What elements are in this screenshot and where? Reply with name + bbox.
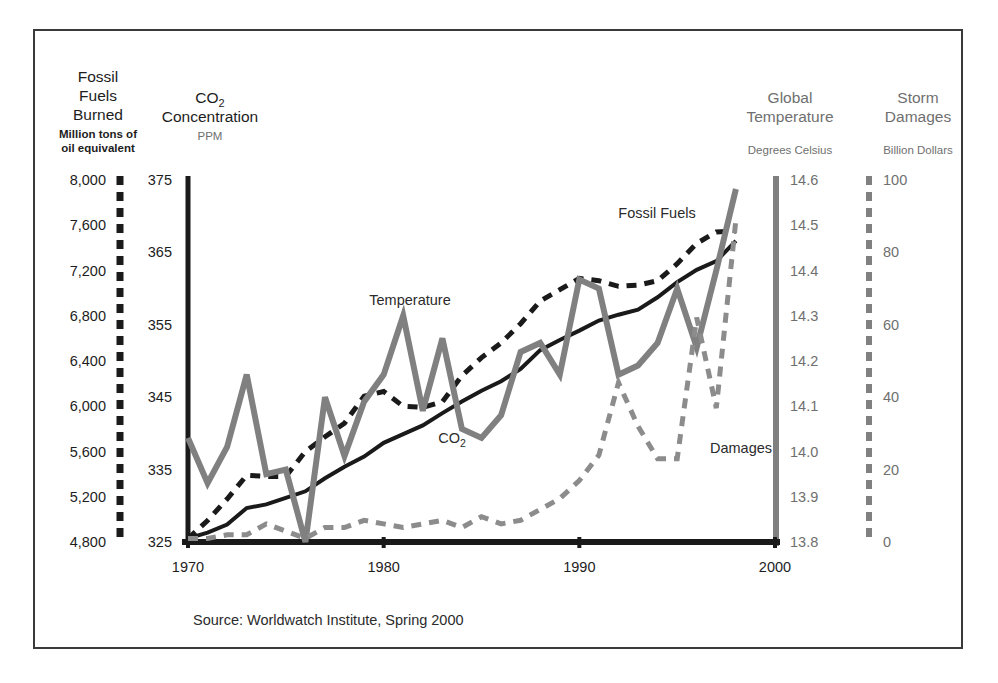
fossil-units-l2: oil equivalent bbox=[61, 142, 135, 154]
x-tick-2000: 2000 bbox=[759, 559, 791, 575]
damages-title-l1: Storm bbox=[897, 89, 938, 106]
x-tick-1990: 1990 bbox=[563, 559, 595, 575]
co2-tick-4: 335 bbox=[148, 462, 172, 478]
damages-title-l2: Damages bbox=[885, 108, 952, 125]
series-temperature bbox=[188, 189, 736, 542]
co2-tick-2: 355 bbox=[148, 317, 172, 333]
fossil-title-l2: Fuels bbox=[79, 87, 117, 104]
temperature-tick-1: 14.5 bbox=[790, 217, 818, 233]
chart-figure: FossilFuelsBurnedMillion tons ofoil equi… bbox=[0, 0, 998, 683]
co2-tick-3: 345 bbox=[148, 389, 172, 405]
co2-tick-0: 375 bbox=[148, 172, 172, 188]
temperature-tick-7: 13.9 bbox=[790, 489, 818, 505]
fossil-tick-5: 6,000 bbox=[70, 398, 106, 414]
fossil-title-l1: Fossil bbox=[78, 68, 118, 85]
temperature-tick-2: 14.4 bbox=[790, 263, 818, 279]
co2-units: PPM bbox=[198, 130, 223, 142]
fossil-tick-7: 5,200 bbox=[70, 489, 106, 505]
damages-tick-5: 0 bbox=[883, 534, 891, 550]
co2-title-l1: CO2 bbox=[195, 89, 224, 109]
label-damages: Damages bbox=[710, 440, 772, 456]
fossil-units-l1: Million tons of bbox=[59, 128, 137, 140]
damages-tick-3: 40 bbox=[883, 389, 899, 405]
fossil-tick-6: 5,600 bbox=[70, 444, 106, 460]
co2-tick-5: 325 bbox=[148, 534, 172, 550]
label-temperature: Temperature bbox=[369, 292, 450, 308]
fossil-tick-4: 6,400 bbox=[70, 353, 106, 369]
damages-tick-0: 100 bbox=[883, 172, 907, 188]
temperature-tick-4: 14.2 bbox=[790, 353, 818, 369]
series-co2 bbox=[188, 241, 736, 539]
temperature-tick-3: 14.3 bbox=[790, 308, 818, 324]
co2-tick-1: 365 bbox=[148, 244, 172, 260]
temperature-tick-8: 13.8 bbox=[790, 534, 818, 550]
source-note-text: Source: Worldwatch Institute, Spring 200… bbox=[193, 612, 464, 628]
damages-tick-4: 20 bbox=[883, 462, 899, 478]
damages-tick-2: 60 bbox=[883, 317, 899, 333]
temp-units: Degrees Celsius bbox=[748, 144, 833, 156]
temperature-tick-0: 14.6 bbox=[790, 172, 818, 188]
fossil-tick-2: 7,200 bbox=[70, 263, 106, 279]
series-damages bbox=[188, 220, 736, 539]
fossil-tick-8: 4,800 bbox=[70, 534, 106, 550]
x-tick-1970: 1970 bbox=[172, 559, 204, 575]
damages-units: Billion Dollars bbox=[883, 144, 953, 156]
series-fossil-fuels bbox=[188, 231, 736, 539]
fossil-tick-3: 6,800 bbox=[70, 308, 106, 324]
temp-title-l1: Global bbox=[768, 89, 813, 106]
fossil-tick-1: 7,600 bbox=[70, 217, 106, 233]
label-fossil-fuels: Fossil Fuels bbox=[618, 205, 695, 221]
x-tick-1980: 1980 bbox=[368, 559, 400, 575]
fossil-tick-0: 8,000 bbox=[70, 172, 106, 188]
temp-title-l2: Temperature bbox=[746, 108, 833, 125]
fossil-title-l3: Burned bbox=[73, 106, 123, 123]
label-co2: CO2 bbox=[438, 430, 466, 449]
damages-tick-1: 80 bbox=[883, 244, 899, 260]
temperature-tick-5: 14.1 bbox=[790, 398, 818, 414]
climate-multi-axis-chart: FossilFuelsBurnedMillion tons ofoil equi… bbox=[0, 0, 998, 683]
co2-title-l2: Concentration bbox=[162, 108, 259, 125]
temperature-tick-6: 14.0 bbox=[790, 444, 818, 460]
